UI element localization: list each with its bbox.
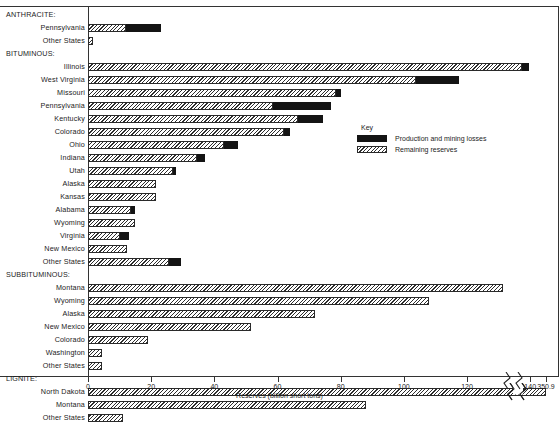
bar-segment-remaining-reserves — [88, 141, 224, 149]
axis-tick-label: 100 — [398, 383, 410, 390]
category-label: Alabama — [56, 203, 85, 216]
bar-segment-remaining-reserves — [88, 167, 173, 175]
axis-tick — [278, 377, 279, 382]
bar-segment-production-losses — [169, 258, 182, 266]
bar-segment-remaining-reserves — [88, 76, 416, 84]
category-label: Pennsylvania — [40, 21, 85, 34]
bar-segment-remaining-reserves — [88, 37, 93, 45]
category-label: Ohio — [69, 138, 85, 151]
bar-segment-production-losses — [336, 89, 341, 97]
category-label: Indiana — [60, 151, 85, 164]
category-label: Colorado — [55, 125, 85, 138]
axis-tick-label-broken: 350.9 — [537, 383, 555, 390]
legend-label-production: Production and mining losses — [395, 133, 486, 144]
category-label: Alaska — [63, 307, 85, 320]
bar-row: Alaska — [0, 177, 559, 190]
bar-segment-remaining-reserves — [88, 24, 126, 32]
bar-segment-remaining-reserves — [88, 154, 197, 162]
bar-segment-remaining-reserves — [88, 232, 120, 240]
bar-segment-remaining-reserves — [88, 128, 284, 136]
group-label: BITUMINOUS: — [6, 47, 55, 60]
bar-segment-remaining-reserves — [88, 258, 169, 266]
axis-tick-label: 40 — [210, 383, 218, 390]
axis-tick-label: 80 — [337, 383, 345, 390]
bar-segment-production-losses — [224, 141, 238, 149]
x-axis: 020406080100120140350.9 — [88, 377, 559, 387]
category-label: Utah — [69, 164, 85, 177]
axis-tick-label: 20 — [147, 383, 155, 390]
axis-tick — [530, 377, 531, 382]
bar-row: Alabama — [0, 203, 559, 216]
bar-segment-production-losses — [197, 154, 205, 162]
axis-tick — [341, 377, 342, 382]
bar-segment-remaining-reserves — [88, 323, 251, 331]
bar-row: Virginia — [0, 229, 559, 242]
legend-label-reserves: Remaining reserves — [395, 144, 457, 155]
axis-tick — [467, 377, 468, 382]
bar-segment-remaining-reserves — [88, 401, 366, 409]
axis-tick-label: 0 — [86, 383, 90, 390]
bar-segment-remaining-reserves — [88, 193, 156, 201]
bar-row: West Virginia — [0, 73, 559, 86]
bar-row: Missouri — [0, 86, 559, 99]
category-label: Alaska — [63, 177, 85, 190]
axis-tick — [88, 377, 89, 382]
bar-segment-remaining-reserves — [88, 102, 273, 110]
x-axis-title: Reserves (billion short tons) — [0, 392, 559, 399]
category-label: Missouri — [57, 86, 85, 99]
axis-tick-label: 140 — [524, 383, 536, 390]
category-label: Montana — [56, 398, 85, 411]
group-label: ANTHRACITE: — [6, 8, 56, 21]
axis-tick-label: 120 — [461, 383, 473, 390]
bar-segment-remaining-reserves — [88, 63, 522, 71]
bar-segment-production-losses — [522, 63, 528, 71]
bar-segment-production-losses — [298, 115, 323, 123]
bar-row: Colorado — [0, 333, 559, 346]
bar-segment-production-losses — [126, 24, 161, 32]
bar-segment-production-losses — [173, 167, 176, 175]
bar-segment-remaining-reserves — [88, 206, 131, 214]
bar-row: New Mexico — [0, 242, 559, 255]
bar-segment-remaining-reserves — [88, 245, 127, 253]
bar-segment-remaining-reserves — [88, 336, 148, 344]
group-header-row: ANTHRACITE: — [0, 8, 559, 21]
group-label: LIGNITE: — [6, 372, 37, 385]
category-label: West Virginia — [41, 73, 85, 86]
category-label: New Mexico — [44, 242, 85, 255]
bar-segment-remaining-reserves — [88, 284, 503, 292]
bar-row: Montana — [0, 398, 559, 411]
axis-tick — [151, 377, 152, 382]
bar-row: Wyoming — [0, 216, 559, 229]
category-label: New Mexico — [44, 320, 85, 333]
bar-segment-remaining-reserves — [88, 219, 135, 227]
category-label: Colorado — [55, 333, 85, 346]
category-label: Kansas — [60, 190, 85, 203]
legend-title: Key — [361, 124, 373, 131]
bar-row: Montana — [0, 281, 559, 294]
legend-swatch-solid-icon — [357, 135, 387, 142]
category-label: Montana — [56, 281, 85, 294]
bar-segment-production-losses — [120, 232, 129, 240]
bar-row: Kentucky — [0, 112, 559, 125]
category-label: Wyoming — [54, 294, 85, 307]
bar-row: Other States — [0, 359, 559, 372]
category-label: Pennsylvania — [40, 99, 85, 112]
category-label: Illinois — [64, 60, 85, 73]
group-label: SUBBITUMINOUS: — [6, 268, 70, 281]
group-header-row: SUBBITUMINOUS: — [0, 268, 559, 281]
bar-row: Wyoming — [0, 294, 559, 307]
bar-row: Pennsylvania — [0, 21, 559, 34]
bar-segment-remaining-reserves — [88, 414, 123, 422]
bar-row: Other States — [0, 34, 559, 47]
category-label: Kentucky — [54, 112, 85, 125]
bar-row: Washington — [0, 346, 559, 359]
bar-segment-remaining-reserves — [88, 180, 156, 188]
bar-row: Other States — [0, 411, 559, 424]
axis-tick-broken — [546, 377, 547, 382]
bar-segment-remaining-reserves — [88, 362, 102, 370]
bar-row: Alaska — [0, 307, 559, 320]
bar-segment-remaining-reserves — [88, 310, 315, 318]
bar-row: Indiana — [0, 151, 559, 164]
axis-tick-label: 60 — [274, 383, 282, 390]
